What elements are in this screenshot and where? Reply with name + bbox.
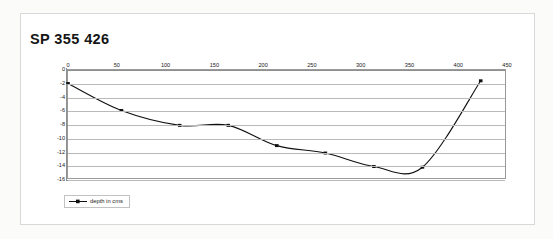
chart-title: SP 355 426 <box>30 31 110 47</box>
plot-area: 0-2-4-6-8-10-12-14-160501001502002503003… <box>67 69 506 179</box>
x-axis-tick-label: 250 <box>307 63 316 69</box>
y-axis-tick-label: -8 <box>60 122 65 128</box>
gridline-y <box>68 166 505 167</box>
y-tick-mark <box>66 70 68 71</box>
y-tick-mark <box>66 153 68 154</box>
y-axis-tick-label: 0 <box>62 67 65 73</box>
chart-legend: depth in cms <box>64 195 130 208</box>
gridline-y <box>68 111 505 112</box>
y-tick-mark <box>66 166 68 167</box>
y-axis-tick-label: -16 <box>57 177 65 183</box>
y-tick-mark <box>66 125 68 126</box>
y-axis-tick-label: -6 <box>60 108 65 114</box>
legend-entry-label: depth in cms <box>90 199 123 205</box>
x-axis-tick-label: 200 <box>258 63 267 69</box>
x-axis-tick-label: 50 <box>114 63 120 69</box>
gridline-y <box>68 180 505 181</box>
gridline-y <box>68 98 505 99</box>
y-axis-tick-label: -2 <box>60 81 65 87</box>
y-tick-mark <box>66 139 68 140</box>
series-data-point <box>275 144 279 147</box>
gridline-y <box>68 153 505 154</box>
gridline-y <box>68 70 505 71</box>
x-axis-tick-label: 400 <box>454 63 463 69</box>
chart-frame: SP 355 426 0-2-4-6-8-10-12-14-1605010015… <box>20 13 535 225</box>
y-tick-mark <box>66 98 68 99</box>
legend-line-marker-icon <box>69 198 87 205</box>
x-axis-tick-label: 300 <box>356 63 365 69</box>
x-axis-tick-label: 450 <box>502 63 511 69</box>
y-tick-mark <box>66 111 68 112</box>
y-axis-tick-label: -4 <box>60 95 65 101</box>
y-axis-tick-label: -12 <box>57 150 65 156</box>
y-tick-mark <box>66 180 68 181</box>
y-tick-mark <box>66 84 68 85</box>
series-line-depth-in-cms <box>68 81 481 174</box>
x-axis-tick-label: 350 <box>405 63 414 69</box>
x-axis-tick-label: 100 <box>161 63 170 69</box>
data-series-layer <box>68 70 505 178</box>
series-data-point <box>479 79 483 82</box>
gridline-y <box>68 125 505 126</box>
gridline-y <box>68 84 505 85</box>
x-axis-tick-label: 0 <box>66 63 69 69</box>
y-axis-tick-label: -14 <box>57 163 65 169</box>
y-axis-tick-label: -10 <box>57 136 65 142</box>
x-axis-tick-label: 150 <box>210 63 219 69</box>
gridline-y <box>68 139 505 140</box>
